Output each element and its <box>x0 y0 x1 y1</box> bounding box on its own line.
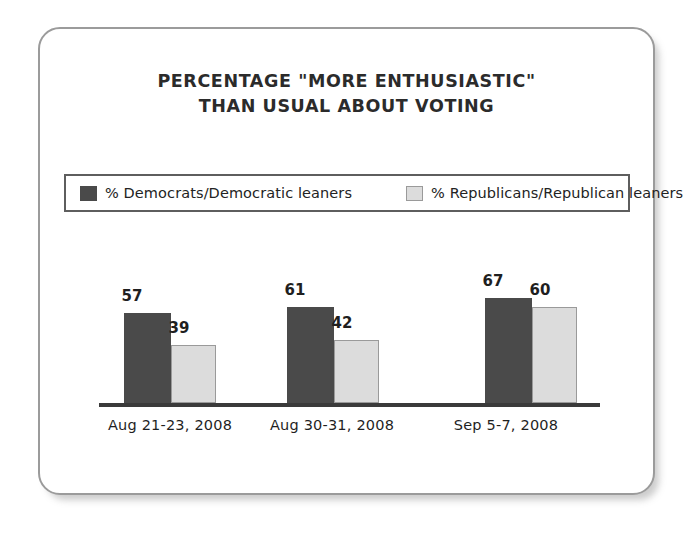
category-label-2: Aug 30-31, 2008 <box>242 417 422 433</box>
axis-baseline <box>99 403 600 407</box>
bar-value-g2-republicans: 42 <box>318 314 366 332</box>
chart-card: PERCENTAGE "MORE ENTHUSIASTIC" THAN USUA… <box>38 27 655 495</box>
bar-value-g2-democrats: 61 <box>271 281 319 299</box>
bar-value-g1-democrats: 57 <box>108 287 156 305</box>
category-label-1: Aug 21-23, 2008 <box>80 417 260 433</box>
bar-value-g1-republicans: 39 <box>155 319 203 337</box>
bar-g3-democrats <box>485 298 532 403</box>
plot-area: 57 39 Aug 21-23, 2008 61 42 Aug 30-31, 2… <box>40 29 653 493</box>
bar-value-g3-republicans: 60 <box>516 281 564 299</box>
bar-g1-republicans <box>171 345 216 403</box>
bar-value-g3-democrats: 67 <box>469 272 517 290</box>
bar-g2-republicans <box>334 340 379 403</box>
bar-g3-republicans <box>532 307 577 403</box>
category-label-3: Sep 5-7, 2008 <box>416 417 596 433</box>
